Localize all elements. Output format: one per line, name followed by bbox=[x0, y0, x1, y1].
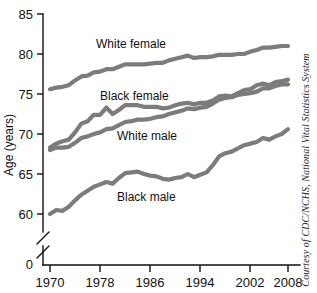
source-credit: Courtesy of CDC/NCHS, National Vital Sta… bbox=[300, 53, 311, 286]
x-tick-label-1970: 1970 bbox=[36, 275, 65, 290]
series-label-black-male: Black male bbox=[117, 190, 176, 204]
chart-figure: Age (years) 85 80 75 70 65 60 0 bbox=[0, 0, 317, 293]
y-tick-label-0: 0 bbox=[26, 257, 33, 272]
y-tick-label-85: 85 bbox=[19, 7, 33, 22]
x-tick-label-2008: 2008 bbox=[274, 275, 303, 290]
x-tick-label-1986: 1986 bbox=[136, 275, 165, 290]
series-label-black-female: Black female bbox=[100, 89, 169, 103]
y-tick-label-75: 75 bbox=[19, 87, 33, 102]
y-tick-label-65: 65 bbox=[19, 167, 33, 182]
life-expectancy-line-chart: Age (years) 85 80 75 70 65 60 0 bbox=[0, 0, 317, 293]
y-tick-marks bbox=[37, 14, 43, 214]
y-tick-label-70: 70 bbox=[19, 127, 33, 142]
y-tick-label-80: 80 bbox=[19, 47, 33, 62]
x-tick-marks bbox=[50, 265, 288, 272]
series-label-white-female: White female bbox=[96, 37, 166, 51]
y-tick-label-60: 60 bbox=[19, 207, 33, 222]
series-label-white-male: White male bbox=[117, 129, 177, 143]
x-tick-label-1994: 1994 bbox=[186, 275, 215, 290]
data-line-white-female bbox=[50, 46, 288, 89]
x-tick-label-1978: 1978 bbox=[86, 275, 115, 290]
y-axis-break-icon bbox=[37, 232, 49, 244]
y-axis-title: Age (years) bbox=[2, 114, 16, 176]
x-tick-label-2002: 2002 bbox=[236, 275, 265, 290]
